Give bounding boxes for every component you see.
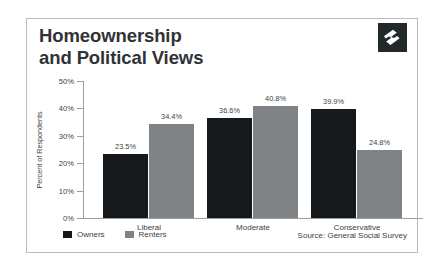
y-axis-tick-mark: [77, 81, 83, 82]
x-axis-line: [83, 218, 423, 219]
bar-renters-moderate[interactable]: 40.8%: [253, 106, 298, 218]
y-axis-tick-mark: [77, 163, 83, 164]
bar-value-label: 23.5%: [115, 142, 136, 151]
bar-owners-liberal[interactable]: 23.5%: [103, 154, 148, 218]
card-header: Homeownership and Political Views: [27, 19, 417, 79]
bar-owners-conservative[interactable]: 39.9%: [311, 109, 356, 218]
plot-area: Percent of Respondents 50%40%30%20%10%0%…: [83, 81, 407, 219]
y-axis-tick-mark: [77, 108, 83, 109]
bar-owners-moderate[interactable]: 36.6%: [207, 118, 252, 218]
legend-item-renters[interactable]: Renters: [125, 230, 167, 239]
y-axis-tick-mark: [77, 218, 83, 219]
legend-label: Renters: [139, 230, 167, 239]
y-axis-tick-mark: [77, 136, 83, 137]
source-note: Source: General Social Survey: [298, 231, 407, 240]
y-axis-line: [83, 81, 84, 219]
zillow-z-logo-icon: [378, 23, 407, 52]
bar-group: 36.6%40.8%Moderate: [207, 81, 298, 218]
y-axis-title: Percent of Respondents: [35, 111, 44, 188]
legend-swatch-icon: [63, 231, 72, 238]
legend-item-owners[interactable]: Owners: [63, 230, 105, 239]
y-axis-tick-label: 10%: [59, 186, 74, 195]
bar-group: 23.5%34.4%Liberal: [103, 81, 194, 218]
bar-value-label: 24.8%: [369, 138, 390, 147]
y-axis-tick-label: 30%: [59, 131, 74, 140]
y-axis-tick-label: 40%: [59, 104, 74, 113]
bar-group: 39.9%24.8%Conservative: [311, 81, 402, 218]
y-axis-tick-label: 0%: [63, 214, 74, 223]
legend-label: Owners: [77, 230, 105, 239]
card-footer: OwnersRenters Source: General Social Sur…: [27, 230, 417, 246]
y-axis-tick-mark: [77, 191, 83, 192]
y-axis-tick-label: 20%: [59, 159, 74, 168]
page-title: Homeownership and Political Views: [39, 25, 339, 69]
bar-value-label: 40.8%: [265, 94, 286, 103]
bar-renters-conservative[interactable]: 24.8%: [357, 150, 402, 218]
bar-renters-liberal[interactable]: 34.4%: [149, 124, 194, 218]
chart-legend: OwnersRenters: [63, 230, 167, 239]
bar-value-label: 34.4%: [161, 112, 182, 121]
bar-value-label: 36.6%: [219, 106, 240, 115]
legend-swatch-icon: [125, 231, 134, 238]
chart-card: Homeownership and Political Views Percen…: [26, 18, 418, 253]
bar-value-label: 39.9%: [323, 97, 344, 106]
y-axis-tick-label: 50%: [59, 77, 74, 86]
